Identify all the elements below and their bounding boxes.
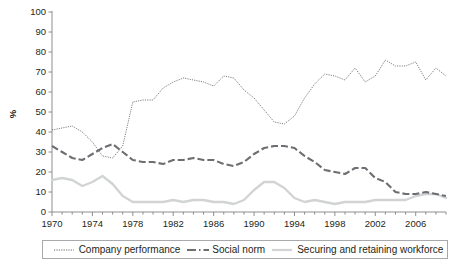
x-tick-label: 1970 [41,218,62,229]
x-tick-label: 1998 [324,218,345,229]
x-tick-label: 1982 [163,218,184,229]
x-tick-label: 2002 [365,218,386,229]
legend-item-company-performance[interactable]: Company performance [47,245,181,255]
legend-item-social-norm[interactable]: Social norm [180,245,265,255]
x-tick-label: 1994 [284,218,305,229]
series-line-social-norm [52,144,446,196]
legend-label-securing-workforce: Securing and retaining workforce [297,245,443,255]
x-tick-label: 1990 [243,218,264,229]
series-line-securing-and-retaining-workforce [52,176,446,204]
y-tick-label: 20 [35,166,46,177]
chart-legend: Company performance Social norm Securing… [42,240,448,259]
x-tick-label: 2006 [405,218,426,229]
x-tick-label: 1986 [203,218,224,229]
y-tick-label: 90 [35,26,46,37]
y-tick-label: 0 [41,206,46,217]
legend-label-social-norm: Social norm [212,245,265,255]
x-tick-label: 1974 [82,218,103,229]
legend-label-company-performance: Company performance [79,245,181,255]
y-tick-label: 30 [35,146,46,157]
series-line-company-performance [52,60,446,158]
y-axis-label: % [7,109,18,118]
data-series [52,60,446,204]
solid-light-swatch-icon [271,246,293,254]
y-tick-label: 50 [35,106,46,117]
y-tick-label: 10 [35,186,46,197]
y-tick-label: 40 [35,126,46,137]
y-axis-title: % [7,109,18,118]
dashed-thick-swatch-icon [186,246,208,254]
y-tick-label: 80 [35,46,46,57]
legend-item-securing-workforce[interactable]: Securing and retaining workforce [265,245,443,255]
x-tick-label: 1978 [122,218,143,229]
dotted-thin-swatch-icon [53,246,75,254]
x-axis-ticks: 1970197419781982198619901994199820022006 [41,212,446,229]
y-tick-label: 100 [30,6,46,17]
chart-figure: % 0102030405060708090100 197019741978198… [0,0,455,270]
line-chart-plot: % 0102030405060708090100 197019741978198… [0,0,455,270]
y-tick-label: 70 [35,66,46,77]
y-axis-ticks: 0102030405060708090100 [30,6,52,217]
y-tick-label: 60 [35,86,46,97]
